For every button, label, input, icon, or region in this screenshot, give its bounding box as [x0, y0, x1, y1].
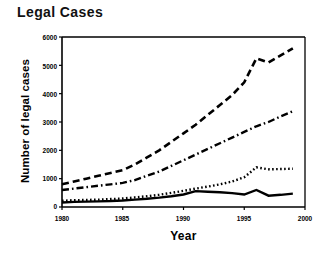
- data-series-layer: [62, 48, 293, 202]
- plot-area: [0, 0, 332, 254]
- chart-figure: Legal Cases Number of legal cases Year 0…: [0, 0, 332, 254]
- series-solid: [62, 190, 293, 202]
- series-dash-dot: [62, 111, 293, 190]
